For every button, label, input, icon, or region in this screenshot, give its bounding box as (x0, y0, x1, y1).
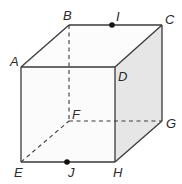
cube-svg (0, 0, 182, 184)
cube-diagram: A B C D E F G H I J (0, 0, 182, 184)
front-face (21, 67, 115, 162)
point-I-dot (109, 22, 115, 28)
point-J-dot (64, 159, 70, 165)
